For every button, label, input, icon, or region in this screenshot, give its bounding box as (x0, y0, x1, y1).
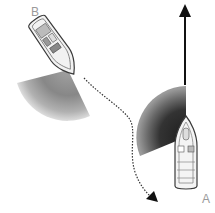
diagram-canvas (0, 0, 215, 213)
boat-a-label: A (202, 192, 210, 206)
course-a-arrowhead (179, 4, 191, 17)
boat-b-label: B (31, 5, 39, 19)
boat-b-sector (17, 70, 90, 121)
boat-b (26, 13, 82, 81)
course-b-arrowhead (146, 191, 158, 202)
